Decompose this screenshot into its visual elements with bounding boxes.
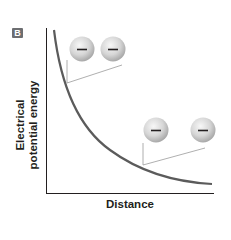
negative-charge-sphere [70, 37, 95, 62]
negative-charge-sphere [144, 118, 169, 143]
x-axis-label: Distance [106, 198, 154, 210]
negative-charge-sphere [191, 118, 216, 143]
y-axis-label-line-2: potential energy [27, 55, 40, 195]
negative-charge-sphere [101, 37, 126, 62]
far-charges-annotation [143, 118, 216, 166]
pointer-line-far [143, 143, 205, 165]
y-axis-label: Electrical potential energy [14, 55, 40, 195]
pointer-line-close [67, 60, 122, 83]
close-charges-annotation [67, 37, 126, 84]
y-axis-label-line-1: Electrical [14, 55, 27, 195]
